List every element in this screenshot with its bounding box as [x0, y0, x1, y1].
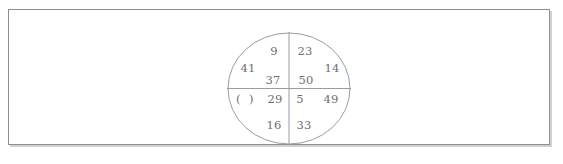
- quadrant-bottom-left-outer-blank[interactable]: ( ): [236, 94, 256, 106]
- quadrant-top-right-inner-top-value: 23: [297, 46, 312, 58]
- quadrant-bottom-right-inner-bottom-value: 33: [296, 120, 311, 132]
- quadrant-bottom-left-inner-top-value: 29: [267, 94, 282, 106]
- quadrant-top-right-inner-bottom-value: 50: [298, 75, 313, 87]
- circle-diagram-svg: [227, 32, 351, 145]
- quadrant-top-left-inner-bottom-value: 37: [265, 75, 280, 87]
- content-frame: 9 41 37 23 14 50 ( ) 29 16 5 49 33: [8, 9, 550, 145]
- quadrant-bottom-right-inner-top-value: 5: [296, 94, 304, 106]
- circle-number-puzzle-figure: 9 41 37 23 14 50 ( ) 29 16 5 49 33: [227, 32, 351, 145]
- quadrant-bottom-left-inner-bottom-value: 16: [266, 120, 281, 132]
- page-canvas: 9 41 37 23 14 50 ( ) 29 16 5 49 33: [0, 0, 563, 164]
- quadrant-top-left-inner-top-value: 9: [270, 46, 278, 58]
- quadrant-bottom-right-outer-value: 49: [323, 94, 338, 106]
- quadrant-top-right-outer-value: 14: [324, 63, 339, 75]
- quadrant-top-left-outer-value: 41: [240, 63, 255, 75]
